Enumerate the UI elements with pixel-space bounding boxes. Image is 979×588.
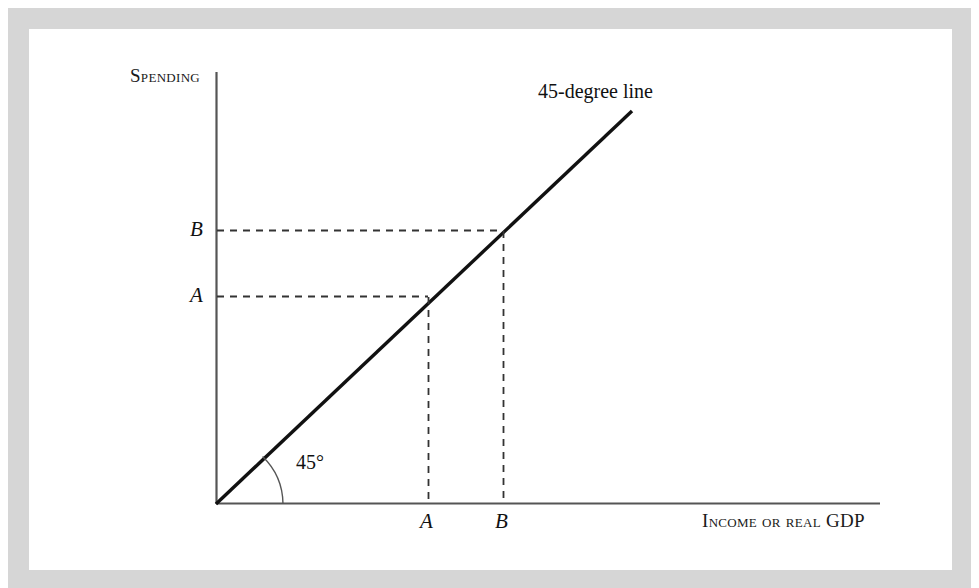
- angle-label: 45°: [296, 452, 324, 472]
- forty-five-degree-line: [216, 111, 632, 504]
- x-tick-label-a: A: [420, 511, 433, 532]
- angle-arc: [263, 457, 283, 504]
- x-tick-label-b: B: [495, 511, 508, 532]
- y-axis-title: Spending: [130, 66, 200, 85]
- figure-root: Spending Income or real GDP 45-degree li…: [0, 0, 979, 588]
- line-label: 45-degree line: [538, 81, 653, 101]
- y-tick-label-b: B: [190, 219, 203, 240]
- y-tick-label-a: A: [190, 285, 203, 306]
- plot-canvas: [0, 0, 979, 588]
- x-axis-title: Income or real GDP: [702, 511, 865, 530]
